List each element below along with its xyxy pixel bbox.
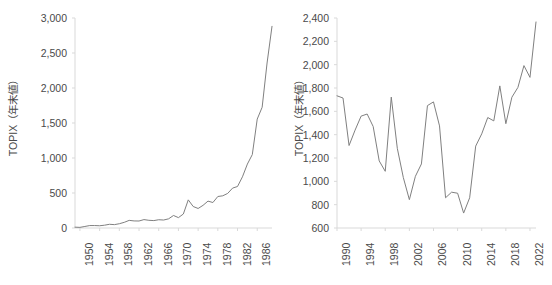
chart-panel-left: TOPIX（年末値） 05001,0001,5002,0002,5003,000… — [0, 0, 276, 285]
topix-chart-figure: TOPIX（年末値） 05001,0001,5002,0002,5003,000… — [0, 0, 552, 285]
plot-area-left — [0, 0, 276, 285]
data-series-line — [75, 26, 272, 227]
data-series-line — [337, 22, 536, 213]
chart-panel-right: TOPIX（年末値） 6008001,0001,2001,4001,6001,8… — [276, 0, 552, 285]
plot-area-right — [276, 0, 552, 285]
